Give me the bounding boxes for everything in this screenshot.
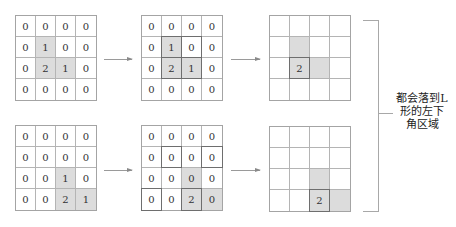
grid-cell: 0 (56, 126, 76, 147)
grid-cell (290, 169, 310, 190)
grid-bottom-window: 0000000000000020 (141, 125, 223, 211)
grid-cell (270, 127, 290, 148)
grid-cell: 2 (182, 189, 202, 210)
grid-cell: 0 (56, 16, 76, 37)
grid-cell: 0 (202, 189, 222, 210)
grid-cell: 0 (162, 126, 182, 147)
grid-cell: 0 (142, 189, 162, 210)
grid-cell (270, 79, 290, 100)
grid-cell (310, 169, 330, 190)
grid-cell (310, 37, 330, 58)
grid-bottom-input: 0000000000100021 (15, 125, 97, 211)
grid-cell (290, 16, 310, 37)
grid-cell (270, 58, 290, 79)
grid-cell: 0 (76, 126, 96, 147)
grid-cell: 0 (142, 168, 162, 189)
arrow-right-icon (231, 170, 260, 171)
grid-cell: 0 (76, 79, 96, 100)
grid-cell: 0 (36, 189, 56, 210)
annotation-line: 都会落到L (392, 92, 452, 105)
grid-cell: 0 (142, 58, 162, 79)
grid-cell: 0 (16, 16, 36, 37)
bracket-vertical (378, 20, 379, 211)
grid-cell: 2 (290, 58, 310, 79)
bracket-bottom-tick (363, 211, 379, 212)
grid-cell (310, 16, 330, 37)
grid-cell: 1 (182, 58, 202, 79)
grid-cell: 2 (56, 189, 76, 210)
grid-cell (310, 79, 330, 100)
grid-cell: 1 (56, 168, 76, 189)
grid-cell: 0 (162, 147, 182, 168)
grid-cell: 0 (142, 37, 162, 58)
grid-cell: 1 (36, 37, 56, 58)
grid-cell (290, 148, 310, 169)
grid-cell (330, 127, 350, 148)
grid-cell: 0 (142, 126, 162, 147)
arrow-right-icon (104, 59, 132, 60)
grid-cell: 0 (56, 147, 76, 168)
grid-cell: 2 (310, 190, 330, 211)
grid-cell: 0 (76, 168, 96, 189)
grid-cell (290, 79, 310, 100)
grid-cell: 0 (202, 147, 222, 168)
annotation-line: 角区域 (392, 118, 452, 131)
grid-cell: 0 (162, 79, 182, 100)
grid-cell: 0 (182, 147, 202, 168)
grid-cell: 2 (162, 58, 182, 79)
grid-cell: 0 (16, 126, 36, 147)
grid-cell: 1 (76, 189, 96, 210)
arrow-right-icon (104, 170, 132, 171)
grid-cell (310, 148, 330, 169)
grid-cell: 0 (36, 79, 56, 100)
grid-cell: 0 (202, 37, 222, 58)
bracket-middle-tick (378, 113, 393, 114)
grid-cell: 0 (182, 79, 202, 100)
grid-cell: 0 (202, 126, 222, 147)
grid-cell: 0 (16, 189, 36, 210)
grid-cell: 0 (36, 168, 56, 189)
grid-cell: 0 (56, 79, 76, 100)
grid-cell: 0 (76, 147, 96, 168)
grid-bottom-result: 2 (269, 126, 351, 212)
grid-cell: 0 (182, 16, 202, 37)
grid-cell: 0 (36, 16, 56, 37)
grid-cell (290, 127, 310, 148)
grid-cell: 0 (202, 79, 222, 100)
bracket-top-tick (363, 20, 379, 21)
grid-cell: 0 (56, 37, 76, 58)
grid-cell (310, 127, 330, 148)
grid-cell: 0 (16, 79, 36, 100)
grid-top-window: 0000010002100000 (141, 15, 223, 101)
grid-top-result: 2 (269, 15, 351, 101)
grid-cell: 0 (16, 168, 36, 189)
grid-cell: 0 (36, 126, 56, 147)
grid-cell: 0 (36, 147, 56, 168)
grid-cell: 0 (16, 37, 36, 58)
grid-cell: 2 (36, 58, 56, 79)
arrow-right-icon (231, 59, 260, 60)
grid-top-input: 0000010002100000 (15, 15, 97, 101)
grid-cell: 1 (56, 58, 76, 79)
grid-cell: 0 (162, 168, 182, 189)
grid-cell: 0 (76, 37, 96, 58)
grid-cell: 1 (162, 37, 182, 58)
annotation-line: 形的左下 (392, 105, 452, 118)
grid-cell: 0 (142, 79, 162, 100)
grid-cell (330, 190, 350, 211)
grid-cell (330, 169, 350, 190)
grid-cell: 0 (202, 168, 222, 189)
grid-cell: 0 (202, 16, 222, 37)
grid-cell (330, 58, 350, 79)
grid-cell: 0 (182, 37, 202, 58)
grid-cell: 0 (182, 168, 202, 189)
grid-cell: 0 (76, 58, 96, 79)
grid-cell (290, 37, 310, 58)
grid-cell (270, 16, 290, 37)
grid-cell (330, 148, 350, 169)
grid-cell (290, 190, 310, 211)
grid-cell: 0 (142, 16, 162, 37)
grid-cell: 0 (76, 16, 96, 37)
grid-cell (270, 169, 290, 190)
grid-cell: 0 (16, 58, 36, 79)
